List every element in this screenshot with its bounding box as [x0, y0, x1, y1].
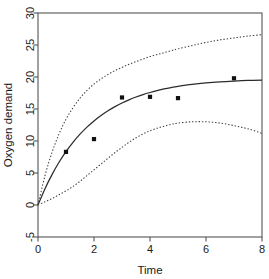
x-axis-ticks — [38, 237, 262, 242]
data-point — [148, 95, 152, 99]
data-point — [120, 95, 124, 99]
y-axis-title: Oxygen demand — [2, 83, 14, 167]
y-tick-label: 30 — [24, 7, 36, 19]
series-lower-confidence-band — [38, 122, 262, 205]
y-axis-tick-labels: -5051015202530 — [24, 7, 36, 242]
oxygen-demand-plot: -5051015202530 02468 Time Oxygen demand — [0, 0, 269, 279]
data-point — [64, 150, 68, 154]
y-tick-label: 15 — [24, 103, 36, 115]
x-tick-label: 2 — [91, 243, 97, 255]
x-tick-label: 0 — [35, 243, 41, 255]
chart-container: -5051015202530 02468 Time Oxygen demand — [0, 0, 269, 279]
x-tick-label: 8 — [259, 243, 265, 255]
series-group — [38, 35, 262, 205]
data-point — [176, 96, 180, 100]
x-tick-label: 4 — [147, 243, 153, 255]
data-point — [232, 76, 236, 80]
x-axis-title: Time — [137, 264, 162, 276]
x-tick-label: 6 — [203, 243, 209, 255]
x-axis-tick-labels: 02468 — [35, 243, 265, 255]
y-tick-label: 10 — [24, 135, 36, 147]
series-upper-confidence-band — [38, 35, 262, 205]
data-point — [92, 137, 96, 141]
y-tick-label: 0 — [24, 202, 36, 208]
y-tick-label: 20 — [24, 71, 36, 83]
y-tick-label: 25 — [24, 39, 36, 51]
y-tick-label: 5 — [24, 170, 36, 176]
y-tick-label: -5 — [24, 232, 36, 242]
